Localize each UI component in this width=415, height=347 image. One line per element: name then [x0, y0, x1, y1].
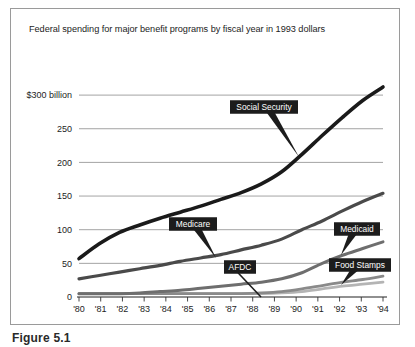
- y-tick-label: 150: [57, 191, 72, 201]
- callout-label-afdc: AFDC: [229, 262, 252, 272]
- y-tick-label: 200: [57, 158, 72, 168]
- callout-pointer-social-security: [267, 113, 299, 157]
- x-tick-label: '93: [355, 304, 367, 314]
- x-tick-label: '84: [160, 304, 172, 314]
- x-tick-label: '80: [73, 304, 85, 314]
- callout-medicare: Medicare: [169, 217, 217, 258]
- y-tick-label: 0: [67, 292, 72, 302]
- x-tick-label: '91: [312, 304, 324, 314]
- y-tick-label: 50: [62, 259, 72, 269]
- callout-label-medicare: Medicare: [176, 219, 211, 229]
- series-callout-labels: Social SecurityMedicareMedicaidFood Stam…: [169, 100, 391, 297]
- callout-pointer-food-stamps: [341, 271, 358, 285]
- figure-root: Federal spending for major benefit progr…: [0, 0, 415, 347]
- figure-caption: Figure 5.1: [12, 331, 71, 345]
- x-tick-label: '87: [225, 304, 237, 314]
- callout-label-medicaid: Medicaid: [340, 224, 374, 234]
- x-tick-label: '90: [290, 304, 302, 314]
- x-axis: [77, 297, 387, 302]
- callout-afdc: AFDC: [224, 260, 261, 297]
- chart-panel: Federal spending for major benefit progr…: [10, 8, 400, 325]
- x-tick-label: '88: [247, 304, 259, 314]
- x-tick-label: '85: [182, 304, 194, 314]
- x-tick-label: '86: [203, 304, 215, 314]
- y-tick-label: 250: [57, 124, 72, 134]
- x-tick-label: '83: [138, 304, 150, 314]
- callout-label-social-security: Social Security: [236, 102, 292, 112]
- x-tick-label: '89: [269, 304, 281, 314]
- x-tick-label: '82: [117, 304, 129, 314]
- x-tick-label: '92: [334, 304, 346, 314]
- y-tick-label: $300 billion: [26, 90, 72, 100]
- line-chart-plot: 050100150200250$300 billion '80'81'82'83…: [11, 9, 401, 326]
- callout-pointer-medicare: [194, 230, 216, 258]
- y-tick-label: 100: [57, 225, 72, 235]
- callout-label-food-stamps: Food Stamps: [335, 260, 385, 270]
- x-tick-label: '94: [377, 304, 389, 314]
- y-axis-tick-labels: 050100150200250$300 billion: [26, 90, 72, 302]
- x-axis-tick-labels: '80'81'82'83'84'85'86'87'88'89'90'91'92'…: [73, 304, 389, 314]
- x-tick-label: '81: [95, 304, 107, 314]
